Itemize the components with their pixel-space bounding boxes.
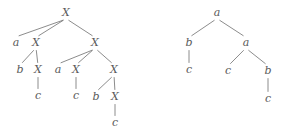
- tree-node-c: c: [35, 89, 41, 102]
- tree-edge: [19, 20, 63, 36]
- tree-edge: [22, 51, 33, 63]
- tree-edge: [249, 50, 266, 63]
- tree-node-a: a: [13, 36, 20, 49]
- tree-edge: [69, 20, 92, 35]
- tree-edge: [99, 77, 112, 89]
- right-tree-nodes: abaccbc: [185, 6, 271, 105]
- tree-node-X: X: [110, 90, 120, 103]
- tree-node-X: X: [90, 36, 100, 49]
- tree-node-c: c: [265, 92, 271, 105]
- tree-edge: [114, 78, 115, 90]
- tree-edge: [61, 50, 92, 62]
- tree-edge: [231, 50, 244, 63]
- tree-node-b: b: [264, 64, 271, 77]
- tree-node-X: X: [61, 6, 71, 19]
- tree-edge: [39, 20, 63, 35]
- tree-node-c: c: [225, 64, 231, 77]
- tree-edge: [98, 50, 112, 62]
- left-tree-nodes: XaXXbXcaXcXbXc: [13, 6, 120, 129]
- parse-tree-canvas: XaXXbXcaXcXbXcabaccbc: [0, 0, 283, 139]
- tree-node-c: c: [73, 89, 79, 102]
- tree-edge: [220, 20, 243, 35]
- tree-node-a: a: [55, 63, 62, 76]
- tree-node-b: b: [92, 90, 99, 103]
- tree-node-a: a: [214, 6, 221, 19]
- tree-node-a: a: [243, 36, 250, 49]
- tree-node-X: X: [31, 36, 41, 49]
- parse-tree-figure: XaXXbXcaXcXbXcabaccbc: [0, 0, 283, 139]
- tree-node-b: b: [16, 63, 23, 76]
- right-tree-edges: [189, 20, 268, 91]
- tree-edge: [192, 20, 214, 35]
- tree-node-b: b: [185, 36, 192, 49]
- tree-edge: [79, 50, 93, 62]
- tree-node-c: c: [186, 63, 192, 76]
- tree-node-X: X: [109, 63, 119, 76]
- tree-node-c: c: [112, 116, 118, 129]
- tree-node-X: X: [33, 63, 43, 76]
- tree-edge: [36, 51, 37, 63]
- tree-node-X: X: [71, 63, 81, 76]
